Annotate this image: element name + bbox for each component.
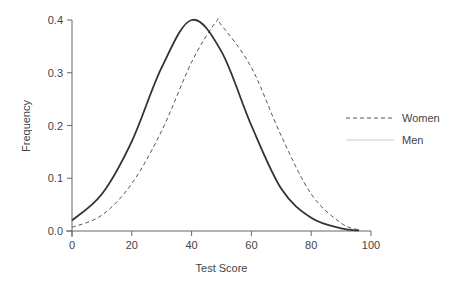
x-tick-label: 80 xyxy=(305,239,317,251)
y-tick-label: 0.2 xyxy=(48,120,63,132)
y-tick-label: 0.4 xyxy=(48,14,63,26)
legend-label-women: Women xyxy=(402,112,440,124)
y-tick-label: 0.0 xyxy=(48,225,63,237)
y-tick-label: 0.3 xyxy=(48,67,63,79)
x-tick-label: 60 xyxy=(245,239,257,251)
series-line-men xyxy=(72,20,359,231)
legend-label-men: Men xyxy=(402,134,423,146)
x-tick-label: 100 xyxy=(362,239,380,251)
x-tick-label: 0 xyxy=(69,239,75,251)
x-axis-label: Test Score xyxy=(196,262,248,274)
y-axis-label: Frequency xyxy=(20,100,32,152)
normal-distribution-chart: 0.00.10.20.30.4020406080100Test ScoreFre… xyxy=(0,0,462,287)
series-line-women xyxy=(72,19,359,230)
y-tick-label: 0.1 xyxy=(48,172,63,184)
x-tick-label: 40 xyxy=(185,239,197,251)
x-tick-label: 20 xyxy=(126,239,138,251)
